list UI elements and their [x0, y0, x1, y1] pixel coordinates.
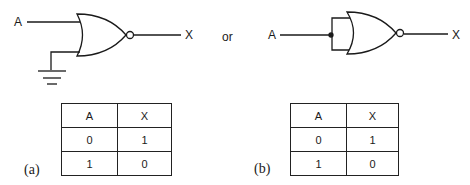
table-cell: 1 — [118, 128, 172, 152]
table-row: 1 0 — [291, 152, 399, 176]
table-cell: 1 — [347, 128, 399, 152]
ground-wire — [51, 52, 80, 70]
header-cell: X — [118, 104, 172, 128]
header-cell: A — [62, 104, 118, 128]
output-label-a: X — [185, 29, 193, 41]
tied-inputs-wire — [332, 18, 350, 50]
output-label-b: X — [452, 29, 460, 41]
table-cell: 0 — [62, 128, 118, 152]
inversion-bubble-b — [397, 30, 404, 37]
table-row: 0 1 — [291, 128, 399, 152]
table-cell: 1 — [291, 152, 347, 176]
table-cell: 0 — [118, 152, 172, 176]
table-row: 0 1 — [62, 128, 172, 152]
caption-b: (b) — [254, 162, 270, 176]
header-cell: A — [291, 104, 347, 128]
ground-icon — [38, 71, 66, 84]
or-connector: or — [222, 31, 233, 43]
header-cell: X — [347, 104, 399, 128]
input-label-b: A — [268, 29, 276, 41]
nor-gate-a — [27, 14, 181, 84]
nor-gate-b — [280, 12, 448, 54]
caption-a: (a) — [24, 163, 40, 177]
table-cell: 0 — [291, 128, 347, 152]
truth-table-b: A X 0 1 1 0 — [290, 103, 399, 176]
or-gate-body-a — [77, 14, 126, 56]
inversion-bubble-a — [127, 32, 134, 39]
truth-table-a: A X 0 1 1 0 — [61, 103, 172, 176]
table-header-row: A X — [62, 104, 172, 128]
or-gate-body-b — [347, 12, 396, 54]
input-label-a: A — [14, 16, 22, 28]
table-cell: 0 — [347, 152, 399, 176]
table-row: 1 0 — [62, 152, 172, 176]
table-header-row: A X — [291, 104, 399, 128]
table-cell: 1 — [62, 152, 118, 176]
